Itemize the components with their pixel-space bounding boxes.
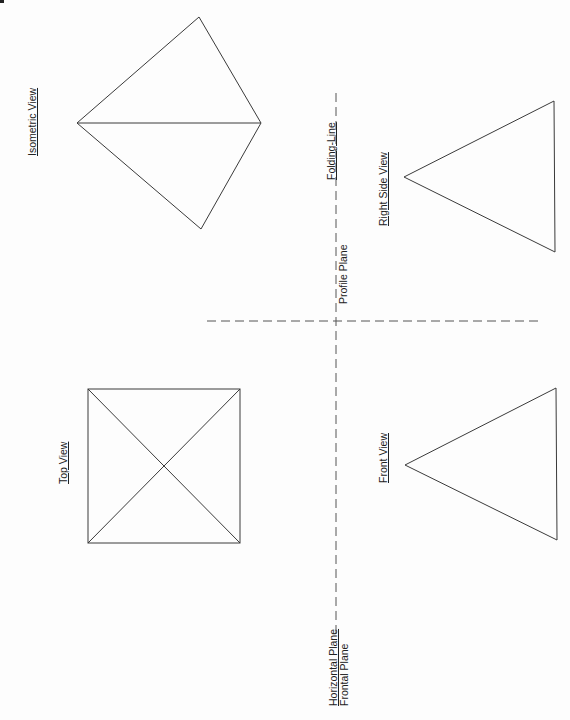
front-view-label: Front View <box>378 433 389 483</box>
profile-plane-label: Profile Plane <box>338 244 349 304</box>
isometric-view-shape <box>77 17 261 229</box>
isometric-view-label: Isometric View <box>27 88 38 156</box>
right-side-view-label: Right Side View <box>378 152 389 226</box>
top-view-label: Top View <box>58 442 69 484</box>
top-view-shape <box>88 389 240 543</box>
drawing-canvas: Isometric View Top View Front View Right… <box>0 0 570 720</box>
front-view-shape <box>405 388 557 540</box>
right-side-view-shape <box>404 101 555 252</box>
frontal-plane-label: Frontal Plane <box>339 644 350 706</box>
drawing-svg <box>0 0 570 720</box>
folding-line-label: Folding-Line <box>326 122 337 180</box>
